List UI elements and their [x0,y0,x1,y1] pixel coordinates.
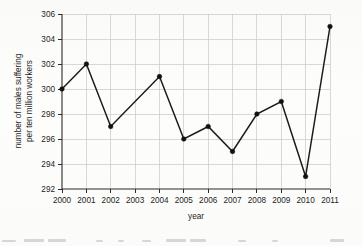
data-point-2002 [108,124,113,129]
x-tick-label: 2005 [175,196,194,205]
y-tick-label: 292 [41,185,55,194]
data-point-2007 [230,149,235,154]
y-tick-label: 294 [41,160,55,169]
data-point-2010 [303,174,308,179]
data-point-2011 [328,24,333,29]
y-axis-title-line1: number of males suffering [14,53,23,148]
x-tick-label: 2006 [199,196,218,205]
chart-svg: 306 304 302 300 298 296 294 292 2000 200… [0,0,362,246]
x-tick-label: 2000 [53,196,72,205]
y-tick-label: 302 [41,60,55,69]
data-point-2005 [182,137,187,142]
x-tick-label: 2002 [102,196,121,205]
x-tick-label: 2003 [126,196,145,205]
data-point-2008 [255,112,260,117]
x-tickmarks [62,189,330,193]
data-series-line [62,27,330,177]
x-tick-label: 2011 [321,196,339,205]
x-tick-labels: 2000 2001 2002 2003 2004 2005 2006 2007 … [53,196,339,205]
y-tick-label: 304 [41,35,55,44]
data-point-2001 [84,62,89,67]
y-tick-label: 300 [41,85,55,94]
x-axis-title: year [188,212,204,221]
y-tick-label: 306 [41,10,55,19]
x-tick-label: 2008 [248,196,267,205]
y-tickmarks [58,14,62,189]
line-chart: 306 304 302 300 298 296 294 292 2000 200… [0,0,362,246]
x-tick-label: 2007 [223,196,242,205]
figure-container: 306 304 302 300 298 296 294 292 2000 200… [0,0,362,246]
vertical-gridlines [86,14,330,189]
horizontal-gridlines [62,14,330,164]
y-tick-label: 298 [41,110,55,119]
data-point-2004 [157,74,162,79]
x-tick-label: 2001 [77,196,96,205]
y-axis-title-line2: per ten million workers [25,60,34,142]
data-point-2000 [60,87,65,92]
x-tick-label: 2004 [150,196,169,205]
x-tick-label: 2009 [272,196,291,205]
x-tick-label: 2010 [296,196,315,205]
data-point-2009 [279,99,284,104]
y-tick-label: 296 [41,135,55,144]
y-tick-labels: 306 304 302 300 298 296 294 292 [41,10,55,194]
data-point-2006 [206,124,211,129]
